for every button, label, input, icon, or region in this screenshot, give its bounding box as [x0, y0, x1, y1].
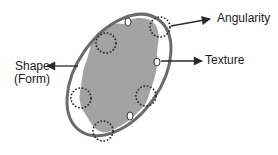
texture-ellipse — [154, 58, 160, 66]
particle-body — [79, 18, 158, 132]
angularity-arrow — [171, 19, 210, 26]
texture-ellipse — [125, 18, 131, 26]
texture-ellipse — [127, 112, 133, 120]
shape-form-label: (Form) — [14, 73, 50, 86]
texture-label: Texture — [205, 54, 244, 67]
angularity-label: Angularity — [217, 12, 270, 25]
